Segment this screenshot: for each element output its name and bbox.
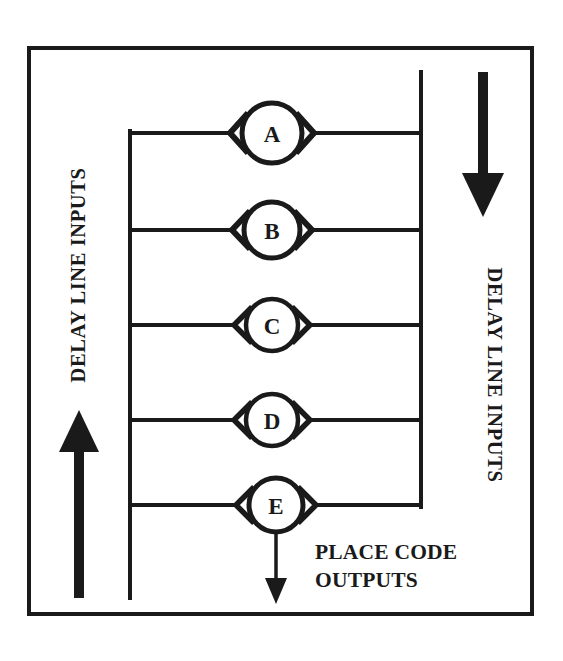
row-C: C xyxy=(130,299,421,351)
left-delay-line-inputs-label: DELAY LINE INPUTS xyxy=(67,168,89,383)
right-delay-line-inputs-label: DELAY LINE INPUTS xyxy=(484,268,506,483)
left-arrow-head xyxy=(59,410,99,452)
place-code-outputs-line1: PLACE CODE xyxy=(315,540,457,564)
right-arrow-head xyxy=(462,173,504,217)
node-E-label: E xyxy=(268,494,283,519)
node-B-label: B xyxy=(264,219,279,244)
place-code-outputs-line2: OUTPUTS xyxy=(315,568,418,592)
row-E: E xyxy=(130,478,421,532)
delay-line-diagram: A B C D xyxy=(0,0,563,661)
output-arrow-head xyxy=(265,578,287,604)
figure-root: A B C D xyxy=(0,0,563,661)
output-arrow-icon xyxy=(265,532,287,604)
left-arrow-shaft xyxy=(74,443,84,598)
right-arrow-shaft xyxy=(478,72,488,180)
row-B: B xyxy=(130,202,421,258)
right-direction-arrow-icon xyxy=(462,72,504,217)
row-D: D xyxy=(130,394,421,446)
row-A: A xyxy=(130,103,421,163)
node-C-label: C xyxy=(264,314,281,339)
node-D-label: D xyxy=(264,409,281,434)
node-A-label: A xyxy=(264,122,281,147)
left-direction-arrow-icon xyxy=(59,410,99,598)
